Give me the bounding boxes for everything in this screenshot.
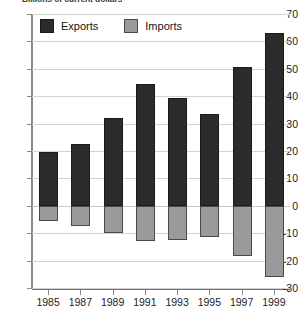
plot-area xyxy=(32,14,290,288)
bar-group xyxy=(226,14,258,288)
bar-exports xyxy=(104,118,123,206)
bar-exports xyxy=(71,144,90,206)
bar-group xyxy=(97,14,129,288)
bar-imports xyxy=(104,206,123,233)
x-tick-mark xyxy=(48,290,49,295)
bar-group xyxy=(129,14,161,288)
chart-axis-title: Billions of current dollars xyxy=(22,0,122,3)
bar-imports xyxy=(233,206,252,257)
bar-exports xyxy=(39,152,58,205)
bar-chart: Billions of current dollars Exports Impo… xyxy=(0,0,298,313)
x-tick-mark xyxy=(145,290,146,295)
bar-imports xyxy=(200,206,219,238)
bar-exports xyxy=(168,98,187,206)
x-tick-mark xyxy=(177,290,178,295)
bar-group xyxy=(32,14,64,288)
bar-imports xyxy=(71,206,90,227)
bar-group xyxy=(64,14,96,288)
x-tick-mark xyxy=(274,290,275,295)
x-tick-label: 1999 xyxy=(254,296,294,308)
x-tick-mark xyxy=(242,290,243,295)
gridline xyxy=(32,288,290,289)
bar-exports xyxy=(265,33,284,206)
bar-imports xyxy=(136,206,155,242)
bar-imports xyxy=(168,206,187,240)
bar-exports xyxy=(136,84,155,206)
bar-group xyxy=(193,14,225,288)
bar-group xyxy=(258,14,290,288)
x-tick-mark xyxy=(80,290,81,295)
bar-exports xyxy=(233,67,252,205)
bar-imports xyxy=(39,206,58,221)
x-tick-mark xyxy=(113,290,114,295)
bar-imports xyxy=(265,206,284,277)
bar-group xyxy=(161,14,193,288)
x-tick-mark xyxy=(209,290,210,295)
bar-exports xyxy=(200,114,219,206)
